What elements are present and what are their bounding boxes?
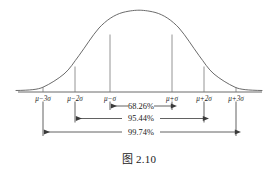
drop-lines-group	[43, 35, 236, 93]
interval-68-label: 68.26%	[128, 102, 154, 111]
interval-99-label: 99.74%	[128, 128, 154, 137]
figure-caption-prefix: 图	[122, 153, 133, 166]
figure-caption-number: 2.10	[136, 153, 156, 165]
figure-caption: 图 2.10	[0, 150, 278, 166]
interval-68-group: 68.26%	[110, 102, 172, 111]
figure-container: μ−3σ μ−2σ μ−σ μ+σ μ+2σ μ+3σ 68.26% 95.44…	[0, 0, 278, 175]
interval-95-label: 95.44%	[128, 114, 154, 123]
normal-distribution-chart: μ−3σ μ−2σ μ−σ μ+σ μ+2σ μ+3σ 68.26% 95.44…	[0, 0, 278, 175]
bell-curve-path-group	[16, 10, 262, 90]
bell-curve-path	[16, 10, 262, 90]
